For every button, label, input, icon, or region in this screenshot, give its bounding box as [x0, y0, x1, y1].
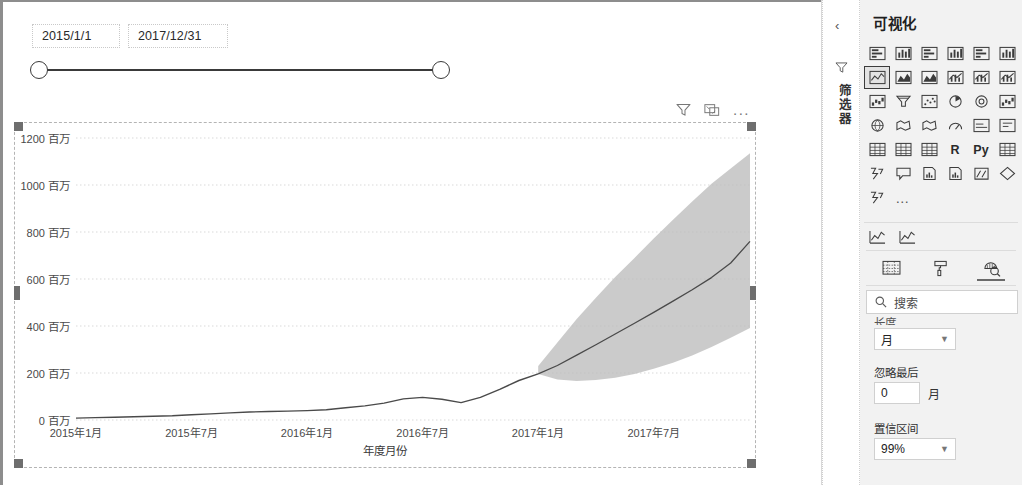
q-and-a-icon: [895, 166, 912, 181]
fields-tab[interactable]: [872, 253, 910, 283]
viz-type-line-stacked-column-chart[interactable]: [942, 66, 968, 89]
filter-icon[interactable]: [835, 60, 848, 78]
canvas-left-border: [0, 0, 3, 485]
viz-type-donut-chart[interactable]: [968, 90, 994, 113]
clustered-column-chart-icon: [947, 46, 964, 61]
visual-more-options-icon[interactable]: ...: [733, 106, 750, 114]
viz-type-stacked-column-chart[interactable]: [890, 42, 916, 65]
viz-type-gauge[interactable]: [942, 114, 968, 137]
filter-icon[interactable]: [676, 103, 691, 117]
viz-type-kpi[interactable]: [968, 114, 994, 137]
viz-type-r-script-visual[interactable]: R: [942, 138, 968, 161]
donut-chart-icon: [973, 94, 990, 109]
slicer-handle-start[interactable]: [30, 61, 48, 79]
viz-type-ribbon-chart[interactable]: [994, 66, 1020, 89]
y-axis-tick-label: 800 百万: [27, 224, 70, 240]
key-influencers-icon: [999, 142, 1016, 157]
ignore-last-value: 0: [881, 386, 888, 400]
resize-handle-bottom-left[interactable]: [14, 459, 23, 468]
smart-narrative-icon: [947, 166, 964, 181]
viz-type-python-visual[interactable]: Py: [968, 138, 994, 161]
custom-line-visual-icon[interactable]: [864, 226, 890, 248]
viz-type-area-chart[interactable]: [890, 66, 916, 89]
viz-type-paginated-report[interactable]: [916, 162, 942, 185]
report-canvas[interactable]: 2015/1/1 2017/12/31 ...: [0, 0, 822, 485]
resize-handle-right[interactable]: [750, 286, 756, 300]
scatter-chart-icon: [921, 94, 938, 109]
line-chart-icon: [869, 70, 886, 85]
viz-type-arcgis-map[interactable]: [916, 114, 942, 137]
viz-type-card[interactable]: [994, 114, 1020, 137]
filters-collapse-icon[interactable]: ‹: [835, 18, 839, 33]
y-axis-tick-label: 600 百万: [27, 271, 70, 287]
pane-tab-strip[interactable]: [866, 250, 1016, 286]
focus-mode-icon[interactable]: [704, 103, 720, 117]
viz-type-matrix[interactable]: [916, 138, 942, 161]
viz-type-power-apps[interactable]: [968, 162, 994, 185]
ignore-last-input[interactable]: 0: [874, 382, 920, 404]
viz-type-100-stacked-column-chart[interactable]: [994, 42, 1020, 65]
search-input[interactable]: 搜索: [866, 290, 1018, 314]
forecast-line-chart-visual[interactable]: ... 0 百万200 百万400 百万600 百万800 百万1000 百万1…: [14, 96, 756, 468]
analytics-tab[interactable]: [972, 253, 1010, 283]
slicer-track[interactable]: [38, 69, 440, 71]
decomposition-tree-icon: [869, 166, 886, 181]
funnel-chart-icon: [895, 94, 912, 109]
forecast-unit-dropdown[interactable]: 月 ▼: [874, 328, 956, 350]
forecast-unit-value: 月: [881, 331, 893, 348]
viz-type-funnel-chart[interactable]: [890, 90, 916, 113]
visualization-type-grid[interactable]: RPy…: [864, 42, 1022, 209]
x-axis-tick-label: 2015年7月: [165, 424, 218, 440]
viz-type-arrow-visual[interactable]: [864, 186, 890, 209]
viz-type-filled-map[interactable]: [890, 114, 916, 137]
custom-forecast-visual-icon[interactable]: [894, 226, 920, 248]
viz-type-clustered-column-chart[interactable]: [942, 42, 968, 65]
viz-type-table[interactable]: [890, 138, 916, 161]
viz-type-clustered-bar-chart[interactable]: [916, 42, 942, 65]
viz-type-scatter-chart[interactable]: [916, 90, 942, 113]
viz-type-multi-row-card[interactable]: [864, 138, 890, 161]
line-clustered-column-chart-icon: [973, 70, 990, 85]
viz-type-stacked-bar-chart[interactable]: [864, 42, 890, 65]
viz-type-map[interactable]: [864, 114, 890, 137]
y-axis-tick-label: 1200 百万: [20, 130, 70, 146]
viz-type-decomposition-tree[interactable]: [864, 162, 890, 185]
date-range-slicer[interactable]: 2015/1/1 2017/12/31: [22, 24, 452, 90]
viz-type-key-influencers[interactable]: [994, 138, 1020, 161]
viz-type-more-options[interactable]: …: [890, 186, 916, 209]
viz-type-100-stacked-bar-chart[interactable]: [968, 42, 994, 65]
filters-pane-collapsed[interactable]: ‹ 筛选器: [822, 0, 860, 485]
filled-map-icon: [895, 118, 912, 133]
kpi-icon: [973, 118, 990, 133]
waterfall-chart-icon: [869, 94, 886, 109]
format-tab[interactable]: [922, 253, 960, 283]
viz-type-stacked-area-chart[interactable]: [916, 66, 942, 89]
canvas-top-border: [3, 0, 822, 2]
resize-handle-bottom-right[interactable]: [747, 459, 756, 468]
chart-svg: [14, 122, 756, 468]
stacked-area-chart-icon: [921, 70, 938, 85]
slicer-end-date-input[interactable]: 2017/12/31: [128, 24, 228, 48]
visualizations-pane-title: 可视化: [873, 12, 917, 33]
viz-type-q-and-a[interactable]: [890, 162, 916, 185]
100-stacked-bar-chart-icon: [973, 46, 990, 61]
viz-type-treemap[interactable]: [994, 90, 1020, 113]
resize-handle-top-left[interactable]: [14, 122, 23, 131]
confidence-interval-dropdown[interactable]: 99% ▼: [874, 438, 956, 460]
viz-type-waterfall-chart[interactable]: [864, 90, 890, 113]
visual-header-toolbar[interactable]: ...: [676, 100, 750, 120]
custom-visuals-row[interactable]: [864, 222, 1018, 248]
slicer-handle-end[interactable]: [432, 61, 450, 79]
viz-type-line-chart[interactable]: [864, 66, 890, 89]
viz-type-get-more-visuals[interactable]: [994, 162, 1020, 185]
slicer-start-date-input[interactable]: 2015/1/1: [32, 24, 120, 48]
map-icon: [869, 118, 886, 133]
ribbon-chart-icon: [999, 70, 1016, 85]
viz-type-line-clustered-column-chart[interactable]: [968, 66, 994, 89]
resize-handle-left[interactable]: [14, 286, 20, 300]
resize-handle-top-right[interactable]: [747, 122, 756, 131]
viz-type-pie-chart[interactable]: [942, 90, 968, 113]
search-placeholder: 搜索: [894, 294, 918, 311]
get-more-visuals-icon: [999, 166, 1016, 181]
viz-type-smart-narrative[interactable]: [942, 162, 968, 185]
